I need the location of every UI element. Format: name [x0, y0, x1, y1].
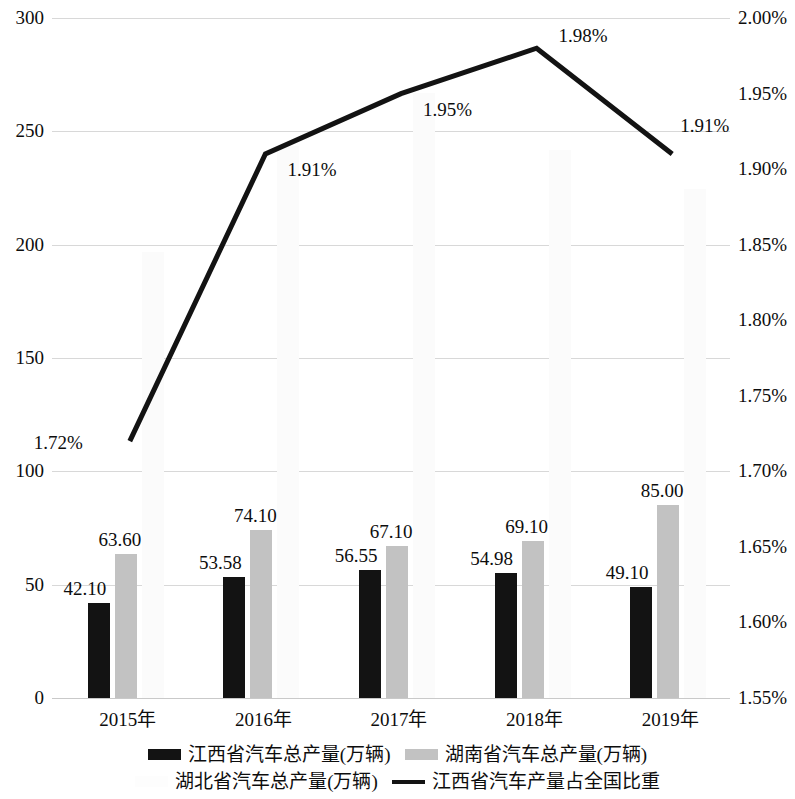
- bar-value-label: 42.10: [40, 579, 130, 598]
- line-value-label: 1.91%: [287, 160, 336, 179]
- legend-item[interactable]: 江西省汽车产量占全国比重: [392, 772, 660, 791]
- bar-value-label: 85.00: [617, 481, 707, 500]
- left-axis-tick: 0: [0, 688, 44, 707]
- legend-row: 江西省汽车总产量(万辆)湖南省汽车总产量(万辆): [0, 741, 795, 768]
- line-value-label: 1.91%: [680, 116, 729, 135]
- right-axis-tick: 1.75%: [738, 386, 787, 405]
- plot-area: 42.1063.60196.8053.5874.10243.7056.5567.…: [52, 18, 730, 698]
- right-axis-tick: 1.70%: [738, 461, 787, 480]
- ratio-polyline: [130, 48, 672, 441]
- bar-value-label: 63.60: [75, 530, 165, 549]
- right-axis-tick: 1.95%: [738, 84, 787, 103]
- bar-value-label: 53.58: [175, 553, 265, 572]
- category-axis-label: 2018年: [467, 710, 603, 729]
- category-axis-label: 2017年: [331, 710, 467, 729]
- category-axis-label: 2015年: [60, 710, 196, 729]
- left-axis-tick: 300: [0, 8, 44, 27]
- bar-value-label: 74.10: [210, 506, 300, 525]
- left-axis-tick: 150: [0, 348, 44, 367]
- right-axis-tick: 1.55%: [738, 688, 787, 707]
- line-value-label: 1.98%: [559, 26, 608, 45]
- left-axis-tick: 250: [0, 121, 44, 140]
- right-axis-tick: 1.90%: [738, 159, 787, 178]
- legend-label: 江西省汽车总产量(万辆): [188, 745, 391, 764]
- bar-value-label: 67.10: [346, 522, 436, 541]
- legend-row: 湖北省汽车总产量(万辆)江西省汽车产量占全国比重: [0, 768, 795, 795]
- legend-bar-swatch-icon: [135, 776, 168, 787]
- legend-label: 湖南省汽车总产量(万辆): [445, 745, 648, 764]
- bar-value-label: 69.10: [482, 517, 572, 536]
- legend-line-swatch-icon: [392, 780, 425, 784]
- legend-bar-swatch-icon: [405, 749, 438, 760]
- legend-item[interactable]: 湖南省汽车总产量(万辆): [405, 745, 648, 764]
- ratio-line-series: [52, 18, 730, 698]
- right-axis-tick: 1.80%: [738, 310, 787, 329]
- line-value-label: 1.95%: [423, 100, 472, 119]
- bar-value-label: 54.98: [447, 549, 537, 568]
- combo-chart: 050100150200250300 1.55%1.60%1.65%1.70%1…: [0, 0, 795, 799]
- legend-item[interactable]: 湖北省汽车总产量(万辆): [135, 772, 378, 791]
- right-axis-tick: 1.60%: [738, 612, 787, 631]
- right-axis-tick: 1.85%: [738, 235, 787, 254]
- gridline: [52, 698, 730, 699]
- right-axis-tick: 1.65%: [738, 537, 787, 556]
- bar-value-label: 56.55: [311, 546, 401, 565]
- left-axis-tick: 50: [0, 575, 44, 594]
- bar-value-label: 49.10: [582, 563, 672, 582]
- line-value-label: 1.72%: [34, 433, 83, 452]
- left-axis-tick: 200: [0, 235, 44, 254]
- legend-label: 湖北省汽车总产量(万辆): [175, 772, 378, 791]
- right-axis-tick: 2.00%: [738, 8, 787, 27]
- legend-bar-swatch-icon: [148, 749, 181, 760]
- legend-item[interactable]: 江西省汽车总产量(万辆): [148, 745, 391, 764]
- legend-label: 江西省汽车产量占全国比重: [432, 772, 660, 791]
- chart-legend: 江西省汽车总产量(万辆)湖南省汽车总产量(万辆)湖北省汽车总产量(万辆)江西省汽…: [0, 741, 795, 795]
- left-axis-tick: 100: [0, 461, 44, 480]
- category-axis-label: 2016年: [196, 710, 332, 729]
- category-axis-label: 2019年: [602, 710, 738, 729]
